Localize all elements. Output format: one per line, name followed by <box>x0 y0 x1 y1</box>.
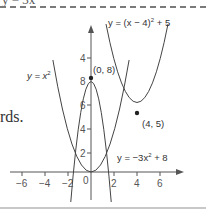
x-tick-label: −6 <box>16 178 28 189</box>
point-label-4-5: (4, 5) <box>142 118 164 129</box>
y-tick-label: 4 <box>80 53 86 64</box>
x-tick-label: −4 <box>39 178 51 189</box>
bottom-rule <box>0 207 206 209</box>
x-tick-label: 0 <box>83 175 89 186</box>
y-axis-arrow-icon <box>88 25 94 33</box>
point-4-5 <box>135 111 139 115</box>
point-0-8 <box>89 76 93 80</box>
y-tick-label: 2 <box>80 148 86 159</box>
y-tick-label: 4 <box>80 124 86 135</box>
x-tick-label: 2 <box>111 178 117 189</box>
x-tick-labels: −6 −4 −2 0 2 4 6 <box>16 175 163 189</box>
x-tick-label: 4 <box>134 178 140 189</box>
y-tick-label: 8 <box>80 76 86 87</box>
parabola-chart: −6 −4 −2 0 2 4 6 2 4 6 8 4 (0, 8) (4, 5)… <box>0 0 206 211</box>
x-axis-arrow-icon <box>176 169 184 175</box>
axes <box>10 25 184 200</box>
x-tick-label: 6 <box>157 178 163 189</box>
curve-label-x-squared: y = x2 <box>26 70 51 81</box>
point-label-0-8: (0, 8) <box>93 64 115 75</box>
curve-shifted-parabola <box>106 24 168 103</box>
curve-label-neg3x2: y = −3x2 + 8 <box>117 152 168 163</box>
y-tick-labels: 2 4 6 8 4 <box>80 53 86 159</box>
curve-label-shifted: y = (x − 4)2 + 5 <box>108 17 170 28</box>
